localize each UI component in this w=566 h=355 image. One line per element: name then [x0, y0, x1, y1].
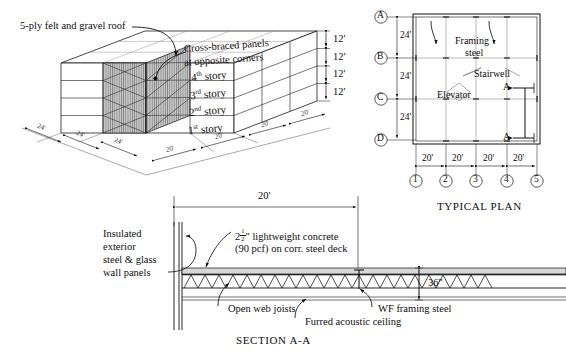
- section-label-wall-panels-l1: Insulated: [103, 228, 142, 239]
- plan-col-dim-2: 20': [452, 154, 463, 164]
- story-suffix-4: th: [196, 70, 202, 77]
- section-mark-bottom: A: [503, 132, 510, 143]
- plan-grid-label-5: 5: [534, 175, 539, 185]
- concrete-deck-leader: [206, 232, 231, 267]
- plan-row-dim-1: 24': [400, 31, 411, 41]
- section-label-open-web-joists: Open web joists: [228, 303, 296, 314]
- plan-label-stairwell: Stairwell: [474, 69, 510, 80]
- story-height-2: 12': [333, 68, 345, 79]
- engineering-drawing-sheet: 5-ply felt and gravel roof Cross-braced …: [0, 0, 566, 355]
- plan-grid-label-b: B: [377, 52, 383, 62]
- story-height-4: 12': [333, 33, 345, 44]
- section-mark-top: A: [503, 82, 510, 93]
- plan-grid-label-1: 1: [413, 175, 418, 185]
- wf-framing-steel-leader: [360, 289, 372, 307]
- story-height-dimensions: [317, 31, 330, 101]
- section-label-wall-panels-l2: exterior: [103, 241, 136, 252]
- section-label-wall-panels-l3: steel & glass: [103, 254, 157, 265]
- plan-row-dim-3: 24': [400, 113, 411, 123]
- story-suffix-3: rd: [195, 88, 201, 95]
- section-depth-dimension-label: 36": [428, 277, 443, 288]
- section-label-wall-panels-l4: wall panels: [103, 267, 151, 278]
- plan-col-dim-4: 20': [513, 154, 524, 164]
- story-suffix-1: st: [193, 123, 198, 130]
- plan-label-elevator: Elevator: [437, 90, 471, 101]
- furred-acoustic-ceiling: [182, 297, 566, 300]
- plan-col-dim-1: 20': [422, 154, 433, 164]
- section-span-dimension: 20': [258, 190, 270, 201]
- typical-plan-title: TYPICAL PLAN: [437, 201, 522, 213]
- plan-label-framing-steel-line1: Framing: [455, 36, 489, 47]
- section-cut-line: [513, 83, 534, 143]
- section-label-wf-framing-steel: WF framing steel: [378, 303, 451, 314]
- story-height-1: 12': [333, 86, 345, 97]
- callout-roof: 5-ply felt and gravel roof: [20, 20, 126, 31]
- story-suffix-2: nd: [194, 105, 201, 113]
- plan-label-framing-steel-line2: steel: [465, 48, 483, 59]
- plan-grid-label-d: D: [377, 134, 384, 144]
- open-web-joist-web: [184, 275, 492, 288]
- section-label-concrete-line2: (90 pcf) on corr. steel deck: [235, 243, 348, 254]
- plan-grid-label-4: 4: [504, 175, 509, 185]
- plan-grid-label-a: A: [377, 11, 384, 21]
- section-label-furred-ceiling: Furred acoustic ceiling: [305, 316, 401, 327]
- section-aa-title: SECTION A-A: [236, 335, 311, 347]
- exterior-wall-panel: [174, 222, 182, 330]
- plan-grid-label-c: C: [377, 93, 383, 103]
- section-label-concrete-line1: 2 1 2 " lightweight concrete: [235, 228, 338, 242]
- plan-col-dim-3: 20': [483, 154, 494, 164]
- concrete-label-rest: " lightweight concrete: [246, 231, 339, 242]
- story-word-3: story: [203, 86, 226, 100]
- plan-row-dim-2: 24': [400, 72, 411, 82]
- story-height-3: 12': [333, 51, 345, 62]
- story-word-4: story: [204, 68, 227, 82]
- plan-grid-label-2: 2: [443, 175, 448, 185]
- story-word-2: story: [204, 103, 227, 117]
- plan-grid-label-3: 3: [473, 175, 478, 185]
